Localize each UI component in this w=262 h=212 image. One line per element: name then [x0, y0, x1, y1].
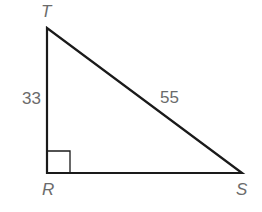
vertex-label-t: T [41, 2, 53, 21]
side-length-ts: 55 [160, 88, 179, 107]
vertex-label-s: S [236, 180, 248, 199]
side-length-tr: 33 [22, 89, 41, 108]
triangle-diagram: T R S 33 55 [0, 0, 262, 212]
vertex-label-r: R [42, 180, 54, 199]
right-angle-marker [47, 151, 70, 173]
triangle-trs [47, 28, 242, 173]
